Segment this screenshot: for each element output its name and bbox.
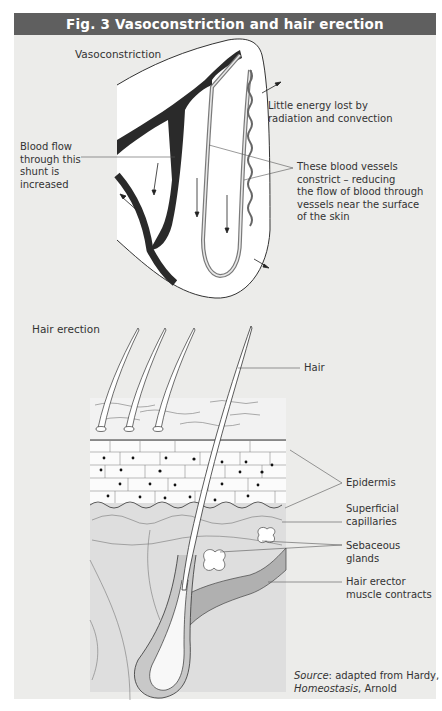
hair-erection-heading: Hair erection: [32, 323, 100, 336]
energy-label-line: radiation and convection: [268, 113, 393, 126]
source-publisher: , Arnold: [358, 683, 397, 694]
energy-label: Little energy lost by radiation and conv…: [268, 100, 393, 125]
shunt-label-line: shunt is: [20, 166, 81, 179]
shunt-label-line: through this: [20, 154, 81, 167]
hair-erection-diagram: [90, 326, 342, 700]
vessels-label-line: These blood vessels: [297, 161, 423, 174]
source-line-1: Source: adapted from Hardy,: [294, 670, 439, 683]
muscle-label-line: muscle contracts: [346, 589, 432, 602]
capillaries-label: Superficial capillaries: [346, 503, 399, 528]
vasoconstriction-heading: Vasoconstriction: [75, 48, 161, 61]
shunt-label: Blood flow through this shunt is increas…: [20, 141, 81, 191]
glands-label-line: Sebaceous: [346, 540, 400, 553]
vasoconstriction-diagram: [81, 39, 293, 298]
vessels-label: These blood vessels constrict – reducing…: [297, 161, 423, 224]
glands-label-line: glands: [346, 553, 400, 566]
shunt-label-line: Blood flow: [20, 141, 81, 154]
source-line-2: Homeostasis, Arnold: [294, 683, 439, 696]
epidermis-label: Epidermis: [346, 477, 396, 490]
glands-label: Sebaceous glands: [346, 540, 400, 565]
vessels-label-line: vessels near the surface: [297, 199, 423, 212]
capillaries-label-line: capillaries: [346, 516, 399, 529]
vessels-label-line: of the skin: [297, 211, 423, 224]
source-credit: Source: adapted from Hardy, Homeostasis,…: [294, 670, 439, 695]
source-book: Homeostasis: [294, 683, 358, 694]
vessels-label-line: constrict – reducing: [297, 174, 423, 187]
vessels-label-line: the flow of blood through: [297, 186, 423, 199]
hair-label: Hair: [304, 362, 325, 375]
shunt-label-line: increased: [20, 179, 81, 192]
capillaries-label-line: Superficial: [346, 503, 399, 516]
source-prefix: Source: [294, 670, 329, 681]
muscle-label: Hair erector muscle contracts: [346, 576, 432, 601]
source-text: : adapted from Hardy,: [329, 670, 440, 681]
energy-label-line: Little energy lost by: [268, 100, 393, 113]
muscle-label-line: Hair erector: [346, 576, 432, 589]
